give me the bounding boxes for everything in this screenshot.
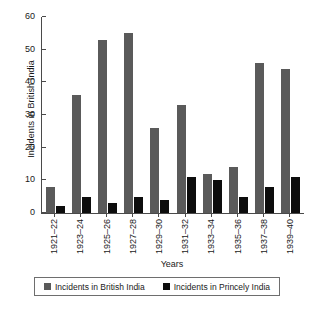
x-label-slot: 1937–38 bbox=[251, 219, 277, 257]
bar-princely-india bbox=[134, 197, 143, 213]
bar-princely-india bbox=[265, 187, 274, 213]
bars-layer bbox=[42, 17, 304, 213]
legend-swatch bbox=[44, 283, 51, 290]
x-tick-slot bbox=[41, 213, 67, 217]
bar-princely-india bbox=[239, 197, 248, 213]
x-label-slot: 1935–36 bbox=[224, 219, 250, 257]
legend-swatch bbox=[163, 283, 170, 290]
x-axis-tick-label: 1935–36 bbox=[233, 219, 243, 254]
x-tick-slot bbox=[224, 213, 250, 217]
chart-legend: Incidents in British IndiaIncidents in P… bbox=[34, 277, 280, 296]
bar-british-india bbox=[281, 69, 290, 213]
bar-british-india bbox=[255, 63, 264, 213]
bar-princely-india bbox=[291, 177, 300, 213]
bar-british-india bbox=[124, 33, 133, 213]
bar-british-india bbox=[98, 40, 107, 213]
x-label-slot: 1921–22 bbox=[41, 219, 67, 257]
x-tick-mark bbox=[132, 213, 133, 217]
legend-label: Incidents in Princely India bbox=[174, 282, 270, 292]
bar-chart-figure: Incidents in British India 0102030405060… bbox=[0, 0, 314, 310]
x-label-slot: 1939–40 bbox=[277, 219, 303, 257]
x-label-slot: 1931–32 bbox=[172, 219, 198, 257]
x-tick-mark bbox=[263, 213, 264, 217]
x-tick-mark bbox=[80, 213, 81, 217]
x-tick-slot bbox=[146, 213, 172, 217]
x-label-slot: 1933–34 bbox=[198, 219, 224, 257]
bar-princely-india bbox=[160, 200, 169, 213]
x-axis-tick-label: 1929–30 bbox=[154, 219, 164, 254]
bar-british-india bbox=[203, 174, 212, 213]
bar-princely-india bbox=[187, 177, 196, 213]
x-axis-labels: 1921–221923–241925–261927–281929–301931–… bbox=[41, 219, 303, 257]
y-tick-label: 20 bbox=[0, 142, 35, 152]
y-tick-label: 0 bbox=[0, 207, 35, 217]
x-axis-tick-label: 1931–32 bbox=[180, 219, 190, 254]
x-axis-tick-label: 1937–38 bbox=[259, 219, 269, 254]
x-tick-mark bbox=[106, 213, 107, 217]
x-label-slot: 1925–26 bbox=[93, 219, 119, 257]
bar-british-india bbox=[177, 105, 186, 213]
x-axis-tick-label: 1939–40 bbox=[285, 219, 295, 254]
bar-group bbox=[199, 17, 225, 213]
y-tick-label: 50 bbox=[0, 44, 35, 54]
bar-british-india bbox=[229, 167, 238, 213]
bar-group bbox=[147, 17, 173, 213]
x-tick-slot bbox=[198, 213, 224, 217]
bar-group bbox=[278, 17, 304, 213]
x-axis-tick-label: 1923–24 bbox=[75, 219, 85, 254]
x-tick-mark bbox=[289, 213, 290, 217]
y-tick-label: 30 bbox=[0, 109, 35, 119]
legend-label: Incidents in British India bbox=[55, 282, 145, 292]
bar-group bbox=[42, 17, 68, 213]
x-tick-slot bbox=[67, 213, 93, 217]
x-tick-slot bbox=[172, 213, 198, 217]
x-axis-tick-label: 1933–34 bbox=[206, 219, 216, 254]
bar-princely-india bbox=[108, 203, 117, 213]
x-axis-tick-label: 1927–28 bbox=[128, 219, 138, 254]
bar-british-india bbox=[72, 95, 81, 213]
x-axis-title: Years bbox=[41, 259, 303, 269]
bar-british-india bbox=[150, 128, 159, 213]
bar-group bbox=[173, 17, 199, 213]
bar-princely-india bbox=[213, 180, 222, 213]
bar-group bbox=[68, 17, 94, 213]
x-tick-slot bbox=[277, 213, 303, 217]
x-tick-mark bbox=[185, 213, 186, 217]
x-tick-slot bbox=[251, 213, 277, 217]
x-tick-mark bbox=[211, 213, 212, 217]
x-axis-ticks bbox=[41, 213, 303, 217]
plot-area: 0102030405060 bbox=[41, 17, 304, 214]
legend-entry: Incidents in Princely India bbox=[163, 282, 270, 292]
bar-group bbox=[252, 17, 278, 213]
x-label-slot: 1929–30 bbox=[146, 219, 172, 257]
bar-group bbox=[225, 17, 251, 213]
y-tick-label: 60 bbox=[0, 11, 35, 21]
y-tick-label: 10 bbox=[0, 174, 35, 184]
x-tick-mark bbox=[237, 213, 238, 217]
x-axis-tick-label: 1925–26 bbox=[102, 219, 112, 254]
x-tick-slot bbox=[93, 213, 119, 217]
x-axis-tick-label: 1921–22 bbox=[49, 219, 59, 254]
x-tick-mark bbox=[54, 213, 55, 217]
y-tick-label: 40 bbox=[0, 76, 35, 86]
legend-entry: Incidents in British India bbox=[44, 282, 145, 292]
x-tick-slot bbox=[120, 213, 146, 217]
bar-group bbox=[121, 17, 147, 213]
bar-british-india bbox=[46, 187, 55, 213]
x-label-slot: 1927–28 bbox=[120, 219, 146, 257]
bar-group bbox=[94, 17, 120, 213]
x-tick-mark bbox=[158, 213, 159, 217]
bar-princely-india bbox=[82, 197, 91, 213]
x-label-slot: 1923–24 bbox=[67, 219, 93, 257]
